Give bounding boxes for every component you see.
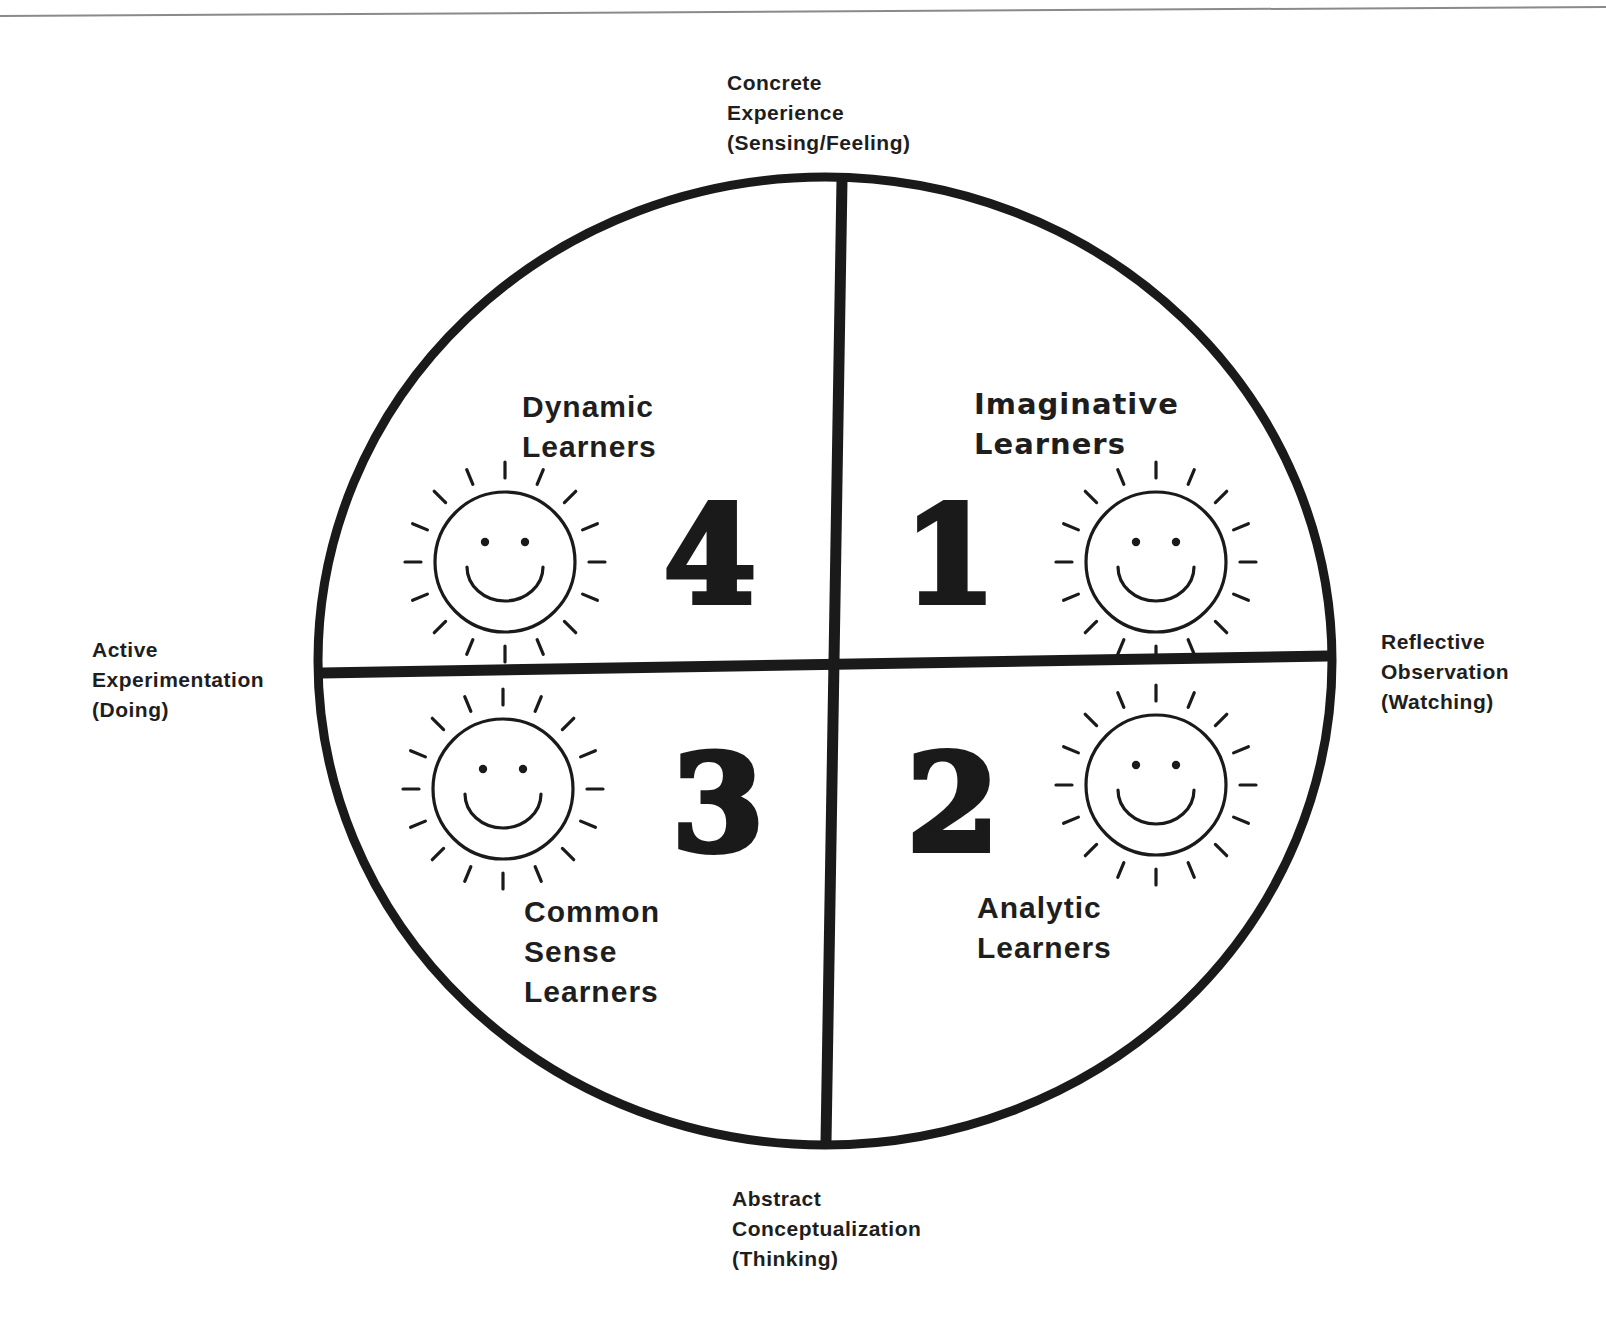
axis-label-line: (Doing)	[92, 695, 264, 725]
quadrant-title-imaginative: Imaginative Learners	[974, 384, 1179, 464]
axis-label-line: Reflective	[1381, 627, 1509, 657]
quadrant-title-line: Learners	[524, 972, 660, 1012]
horizontal-divider	[322, 656, 1328, 673]
quadrant-title-line: Learners	[974, 424, 1179, 464]
quadrant-title-line: Common	[524, 892, 660, 932]
axis-label-line: Observation	[1381, 657, 1509, 687]
axis-label-reflective-observation: Reflective Observation (Watching)	[1381, 627, 1509, 717]
quadrant-title-line: Analytic	[977, 888, 1112, 928]
smiley-sun-icon	[403, 689, 603, 889]
quadrant-title-line: Learners	[522, 427, 657, 467]
axis-label-line: Experimentation	[92, 665, 264, 695]
quadrant-title-line: Sense	[524, 932, 660, 972]
quadrant-number-1: 1	[904, 490, 996, 622]
quadrant-title-common-sense: Common Sense Learners	[524, 892, 660, 1012]
smiley-sun-icon	[1056, 462, 1256, 662]
learning-styles-diagram: Concrete Experience (Sensing/Feeling) Re…	[0, 0, 1606, 1338]
quadrant-number-3: 3	[672, 738, 764, 870]
quadrant-number-4: 4	[664, 490, 756, 622]
axis-label-active-experimentation: Active Experimentation (Doing)	[92, 635, 264, 725]
scan-edge-line	[0, 7, 1606, 16]
smiley-sun-icon	[1056, 685, 1256, 885]
quadrant-title-line: Imaginative	[974, 384, 1179, 424]
axis-label-line: (Watching)	[1381, 687, 1509, 717]
axis-label-line: Active	[92, 635, 264, 665]
axis-label-line: (Sensing/Feeling)	[727, 128, 911, 158]
axis-label-line: Concrete	[727, 68, 911, 98]
quadrant-title-line: Learners	[977, 928, 1112, 968]
axis-label-line: Abstract	[732, 1184, 921, 1214]
axis-label-abstract-conceptualization: Abstract Conceptualization (Thinking)	[732, 1184, 921, 1274]
axis-label-line: Conceptualization	[732, 1214, 921, 1244]
quadrant-title-dynamic: Dynamic Learners	[522, 387, 657, 467]
smiley-sun-icon	[405, 462, 605, 662]
quadrant-title-analytic: Analytic Learners	[977, 888, 1112, 968]
axis-label-line: (Thinking)	[732, 1244, 921, 1274]
quadrant-title-line: Dynamic	[522, 387, 657, 427]
quadrant-number-2: 2	[907, 738, 999, 870]
axis-label-line: Experience	[727, 98, 911, 128]
axis-label-concrete-experience: Concrete Experience (Sensing/Feeling)	[727, 68, 911, 158]
